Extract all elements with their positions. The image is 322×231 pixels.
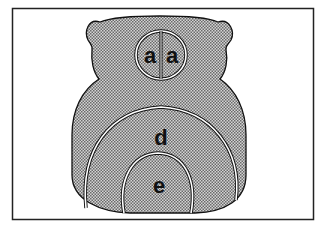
- label-a-left: a: [144, 43, 157, 68]
- label-d: d: [154, 125, 167, 150]
- label-a-right: a: [166, 43, 179, 68]
- diagram-canvas: a a d e: [0, 0, 322, 231]
- label-e: e: [153, 173, 165, 198]
